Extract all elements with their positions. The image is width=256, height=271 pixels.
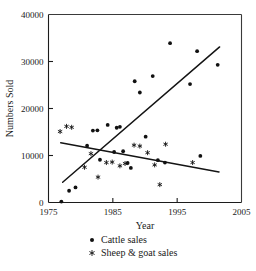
chart-legend: Cattle salesSheep & goat sales (89, 234, 177, 258)
data-point-sheep-goat (190, 160, 194, 165)
data-point-sheep-goat (118, 163, 122, 168)
y-tick-label: 20000 (21, 104, 44, 114)
legend-label: Sheep & goat sales (101, 247, 177, 258)
data-point-cattle (74, 186, 78, 190)
data-point-cattle (195, 49, 199, 53)
data-point-cattle (95, 128, 99, 132)
x-axis-title: Year (136, 220, 155, 231)
data-point-cattle (168, 41, 172, 45)
data-point-cattle (112, 150, 116, 154)
scatter-plot: 0100002000030000400001975198519952005 Ye… (0, 0, 256, 271)
data-point-sheep-goat (58, 129, 62, 134)
data-point-sheep-goat (104, 160, 108, 165)
legend-marker-sheep-goat (89, 250, 94, 256)
data-point-cattle (121, 149, 125, 153)
trend-lines (61, 47, 220, 182)
y-axis-title: Numbers Sold (4, 80, 15, 138)
data-point-cattle (115, 126, 119, 130)
data-point-sheep-goat (110, 160, 114, 165)
data-point-cattle (216, 63, 220, 67)
data-point-cattle (133, 79, 137, 83)
data-point-cattle (118, 125, 122, 129)
data-point-sheep-goat (132, 143, 136, 148)
data-points (58, 41, 220, 203)
data-point-sheep-goat (152, 162, 156, 167)
cattle-trend (63, 47, 220, 182)
y-tick-label: 30000 (21, 57, 44, 67)
x-tick-label: 1985 (104, 207, 123, 217)
data-point-cattle (98, 158, 102, 162)
x-tick-label: 1995 (168, 207, 187, 217)
data-point-sheep-goat (158, 182, 162, 187)
data-point-cattle (129, 166, 133, 170)
data-point-sheep-goat (69, 125, 73, 130)
data-point-cattle (91, 129, 95, 133)
data-point-cattle (188, 82, 192, 86)
data-point-sheep-goat (64, 124, 68, 129)
legend-label: Cattle sales (101, 234, 147, 245)
axis-ticks (49, 62, 178, 203)
data-point-sheep-goat (138, 144, 142, 149)
data-point-cattle (144, 135, 148, 139)
data-point-cattle (106, 123, 110, 127)
data-point-sheep-goat (89, 151, 93, 156)
data-point-cattle (85, 144, 89, 148)
chart-figure: 0100002000030000400001975198519952005 Ye… (0, 0, 256, 271)
x-tick-label: 1975 (40, 207, 59, 217)
data-point-cattle (59, 200, 63, 204)
data-point-sheep-goat (145, 150, 149, 155)
data-point-cattle (67, 189, 71, 193)
data-point-cattle (156, 158, 160, 162)
data-point-cattle (151, 74, 155, 78)
y-tick-label: 40000 (21, 10, 44, 20)
data-point-sheep-goat (163, 142, 167, 147)
series-cattle-sales (59, 41, 219, 203)
axes (49, 15, 242, 203)
data-point-cattle (163, 161, 167, 165)
data-point-sheep-goat (96, 175, 100, 180)
data-point-cattle (138, 91, 142, 95)
y-tick-label: 10000 (21, 151, 44, 161)
x-tick-label: 2005 (233, 207, 252, 217)
legend-marker-cattle (90, 238, 94, 242)
data-point-cattle (198, 154, 202, 158)
axis-tick-labels: 0100002000030000400001975198519952005 (21, 10, 251, 217)
